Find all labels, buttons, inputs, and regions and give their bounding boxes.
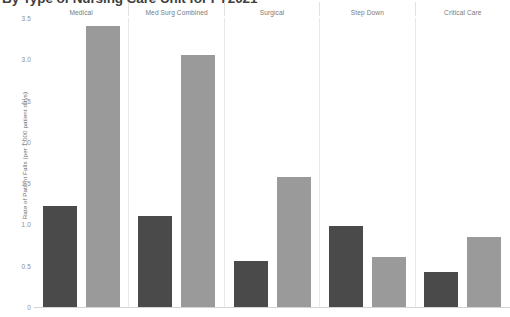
bar[interactable] [234,261,268,307]
y-axis-tick: 0 [5,304,31,311]
panel-header-label: Medical [34,9,128,16]
x-axis-baseline [34,307,510,308]
bar[interactable] [181,55,215,307]
bar[interactable] [424,272,458,307]
bar-chart: By Type of Nursing Care Unit for FY2021 … [0,0,510,317]
bar-group [416,18,510,307]
y-axis-tick: 3.0 [5,56,31,63]
chart-panel: Step Down [320,18,415,307]
bar[interactable] [138,216,172,307]
panel-header-label: Critical Care [416,9,510,16]
bar[interactable] [467,237,501,307]
bar[interactable] [277,177,311,307]
bar[interactable] [86,26,120,307]
bar[interactable] [329,226,363,307]
y-axis-tick: 2.5 [5,97,31,104]
y-axis-tick: 1.0 [5,221,31,228]
bar-group [320,18,414,307]
chart-panel: Surgical [225,18,320,307]
chart-panel: Med Surg Combined [129,18,224,307]
bar[interactable] [372,257,406,307]
chart-title: By Type of Nursing Care Unit for FY2021 [2,0,257,6]
bar-group [34,18,128,307]
y-axis-tick: 1.5 [5,180,31,187]
chart-panel: Medical [34,18,129,307]
bar-group [225,18,319,307]
chart-panel: Critical Care [416,18,510,307]
bar[interactable] [43,206,77,307]
panel-header-label: Med Surg Combined [129,9,223,16]
panel-header-label: Surgical [225,9,319,16]
panel-group: MedicalMed Surg CombinedSurgicalStep Dow… [34,18,510,307]
panel-header-label: Step Down [320,9,414,16]
y-axis-tick: 3.5 [5,15,31,22]
y-axis-tick: 0.5 [5,262,31,269]
bar-group [129,18,223,307]
y-axis-tick: 2.0 [5,138,31,145]
y-axis-tick-labels: 3.53.02.52.01.51.00.50 [0,0,31,317]
